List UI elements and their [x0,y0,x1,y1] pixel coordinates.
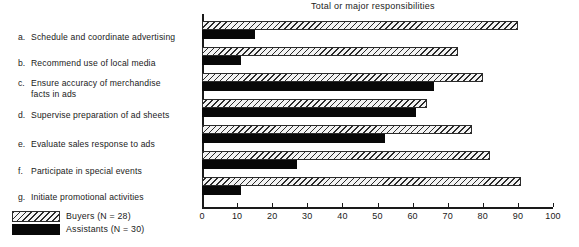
chart-title: Total or major responsibilities [311,1,435,11]
x-axis: 0102030405060708090100 [202,207,558,247]
x-tick-50 [378,203,379,207]
bar-g-buyers [202,177,521,186]
bar-f-buyers [202,151,490,160]
category-letter-e: e. [18,139,25,150]
x-tick-60 [413,203,414,207]
bar-b-buyers [202,47,458,56]
x-axis-line [202,207,553,209]
bar-f-assistants [202,160,297,169]
bar-c-buyers [202,73,483,82]
category-label-e: Evaluate sales response to ads [31,139,201,150]
bar-group-a [202,21,553,39]
category-letter-c: c. [18,78,25,89]
category-letter-g: g. [18,192,25,203]
x-tick-30 [307,203,308,207]
x-tick-10 [237,203,238,207]
bar-e-buyers [202,125,472,134]
bar-group-d [202,99,553,117]
x-tick-90 [518,203,519,207]
bar-chart: Total or major responsibilities a. Sched… [0,0,579,247]
category-label-d: Supervise preparation of ad sheets [31,110,201,121]
x-tick-label-70: 70 [442,211,452,221]
x-tick-label-20: 20 [267,211,277,221]
category-letter-f: f. [18,166,23,177]
category-letter-d: d. [18,110,25,121]
x-tick-label-90: 90 [513,211,523,221]
bar-b-assistants [202,56,241,65]
x-tick-label-50: 50 [372,211,382,221]
category-label-g: Initiate promotional activities [31,192,201,203]
legend-swatch-solid-icon [12,224,60,235]
x-tick-80 [483,203,484,207]
bar-group-f [202,151,553,169]
x-tick-label-80: 80 [478,211,488,221]
category-letter-a: a. [18,32,25,43]
x-tick-label-0: 0 [199,211,204,221]
x-tick-label-30: 30 [302,211,312,221]
bar-group-e [202,125,553,143]
x-tick-label-100: 100 [545,211,561,221]
bar-e-assistants [202,134,385,143]
x-tick-label-10: 10 [232,211,242,221]
x-tick-label-60: 60 [407,211,417,221]
plot-area [202,14,558,207]
legend-label-buyers: Buyers (N = 28) [66,211,131,222]
bar-d-assistants [202,108,416,117]
x-tick-0 [202,203,203,207]
bar-group-g [202,177,553,195]
category-label-b: Recommend use of local media [31,58,201,69]
legend-label-assistants: Assistants (N = 30) [66,224,144,235]
x-tick-20 [272,203,273,207]
chart-legend: Buyers (N = 28) Assistants (N = 30) [12,211,192,241]
category-label-a: Schedule and coordinate advertising [31,32,201,43]
category-label-list: a. Schedule and coordinate advertising b… [0,14,200,204]
bar-a-buyers [202,21,518,30]
bar-g-assistants [202,186,241,195]
bar-a-assistants [202,30,255,39]
category-letter-b: b. [18,58,25,69]
bar-group-b [202,47,553,65]
bar-d-buyers [202,99,427,108]
bar-group-c [202,73,553,91]
category-label-f: Participate in special events [31,166,201,177]
x-tick-70 [448,203,449,207]
x-tick-100 [553,203,554,207]
category-label-c: Ensure accuracy of merchandise facts in … [31,78,181,100]
bar-c-assistants [202,82,434,91]
x-tick-40 [342,203,343,207]
x-tick-label-40: 40 [337,211,347,221]
legend-swatch-hatched-icon [12,211,60,222]
